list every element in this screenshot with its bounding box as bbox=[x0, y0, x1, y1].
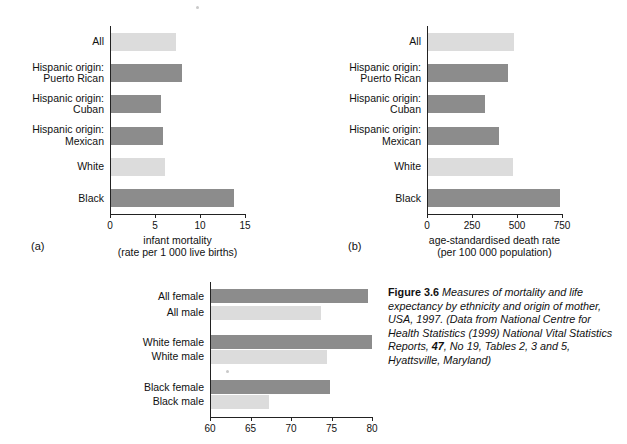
bar bbox=[211, 350, 327, 364]
bar bbox=[111, 158, 165, 176]
category-label: White male bbox=[128, 351, 204, 363]
category-label: Hispanic origin:Mexican bbox=[18, 124, 104, 147]
plot-area bbox=[110, 26, 246, 215]
figure-caption-volume: 47 bbox=[432, 340, 444, 352]
x-tick bbox=[251, 417, 252, 421]
bar bbox=[211, 335, 372, 349]
x-tick-label: 70 bbox=[271, 423, 311, 434]
category-label: White bbox=[335, 161, 421, 173]
x-tick-label: 65 bbox=[231, 423, 271, 434]
x-tick-label: 10 bbox=[180, 220, 220, 231]
x-tick bbox=[562, 214, 563, 218]
chart-life-expectancy: All femaleAll maleWhite femaleWhite male… bbox=[128, 282, 384, 444]
plot-area bbox=[210, 282, 373, 418]
bar bbox=[428, 95, 485, 113]
chart-infant-mortality: AllHispanic origin:Puerto RicanHispanic … bbox=[18, 26, 257, 264]
bar bbox=[428, 64, 508, 82]
x-tick bbox=[110, 214, 111, 218]
x-tick-label: 0 bbox=[90, 220, 130, 231]
bar bbox=[428, 158, 513, 176]
x-tick-label: 5 bbox=[135, 220, 175, 231]
bar bbox=[211, 306, 321, 320]
bar bbox=[111, 64, 182, 82]
bar bbox=[111, 95, 161, 113]
x-tick-label: 75 bbox=[312, 423, 352, 434]
x-tick bbox=[332, 417, 333, 421]
x-tick-label: 15 bbox=[225, 220, 265, 231]
x-tick bbox=[372, 417, 373, 421]
bar bbox=[428, 127, 499, 145]
bar bbox=[211, 395, 269, 409]
category-label: Hispanic origin:Puerto Rican bbox=[18, 62, 104, 85]
bar bbox=[111, 189, 234, 207]
x-tick-label: 500 bbox=[497, 220, 537, 231]
bar bbox=[428, 33, 514, 51]
bar bbox=[211, 380, 330, 394]
category-label: Hispanic origin:Cuban bbox=[18, 93, 104, 116]
x-tick-label: 250 bbox=[452, 220, 492, 231]
x-tick bbox=[210, 417, 211, 421]
bar bbox=[111, 33, 176, 51]
chart-death-rate: AllHispanic origin:Puerto RicanHispanic … bbox=[335, 26, 574, 264]
x-tick-label: 60 bbox=[190, 423, 230, 434]
category-label: All bbox=[18, 36, 104, 48]
bar bbox=[111, 127, 163, 145]
category-label: Black bbox=[18, 193, 104, 205]
category-label: Black bbox=[335, 193, 421, 205]
category-label: All female bbox=[128, 291, 204, 303]
scan-speck bbox=[196, 6, 199, 9]
category-label: Hispanic origin:Puerto Rican bbox=[335, 62, 421, 85]
panel-letter-a: (a) bbox=[31, 240, 44, 252]
bar bbox=[211, 289, 368, 303]
x-tick bbox=[245, 214, 246, 218]
x-tick bbox=[155, 214, 156, 218]
category-label: All male bbox=[128, 307, 204, 319]
figure-caption: Figure 3.6 Measures of mortality and lif… bbox=[388, 286, 616, 368]
category-label: White female bbox=[128, 337, 204, 349]
figure-label: Figure 3.6 bbox=[388, 286, 439, 298]
x-tick-label: 750 bbox=[542, 220, 582, 231]
x-tick bbox=[472, 214, 473, 218]
category-label: White bbox=[18, 161, 104, 173]
panel-letter-b: (b) bbox=[348, 240, 361, 252]
x-axis-title: infant mortality(rate per 1 000 live bir… bbox=[70, 234, 285, 258]
x-tick bbox=[291, 417, 292, 421]
bar bbox=[428, 189, 560, 207]
category-label: All bbox=[335, 36, 421, 48]
category-label: Hispanic origin:Mexican bbox=[335, 124, 421, 147]
plot-area bbox=[427, 26, 563, 215]
x-tick-label: 80 bbox=[352, 423, 392, 434]
x-tick bbox=[517, 214, 518, 218]
x-tick bbox=[200, 214, 201, 218]
x-tick-label: 0 bbox=[407, 220, 447, 231]
category-label: Hispanic origin:Cuban bbox=[335, 93, 421, 116]
category-label: Black female bbox=[128, 382, 204, 394]
x-tick bbox=[427, 214, 428, 218]
category-label: Black male bbox=[128, 396, 204, 408]
x-axis-title: age-standardised death rate(per 100 000 … bbox=[387, 234, 602, 258]
scan-speck-2 bbox=[226, 370, 229, 373]
